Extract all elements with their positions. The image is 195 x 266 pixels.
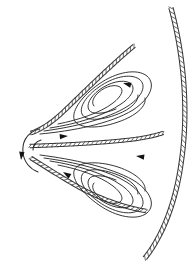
lower-hatched-branch-rail-inner	[32, 156, 146, 209]
left-nose-arc	[23, 129, 39, 172]
lower-vortex-top-arrow	[136, 153, 145, 159]
nose-cap-group	[23, 129, 41, 172]
lower-vortex	[40, 155, 151, 217]
outer-right-arc-rail-inner	[147, 7, 187, 259]
outer-right-arc	[143, 7, 187, 261]
upper-vortex-bottom-arrow	[60, 133, 69, 139]
lower-vortex-streamline-1	[44, 158, 143, 213]
outer-right-arc-ticks	[145, 7, 187, 261]
flow-diagram-svg	[0, 0, 195, 266]
hatched-boundaries-group	[29, 7, 187, 261]
figure-root: Counter-rotating vortex pair between hat…	[0, 0, 195, 266]
